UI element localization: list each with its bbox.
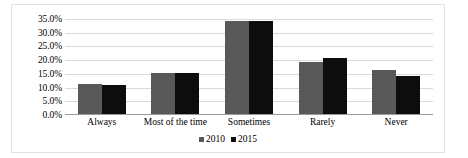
- bar-2010[interactable]: [225, 21, 249, 114]
- legend-swatch-icon: [199, 137, 204, 142]
- bar-2010[interactable]: [151, 73, 175, 114]
- bar-group: [286, 19, 360, 114]
- bar-2010[interactable]: [78, 84, 102, 114]
- legend-item-2015[interactable]: 2015: [231, 134, 257, 144]
- bar-groups: [65, 19, 433, 114]
- y-axis-tick: 10.0%: [38, 83, 62, 93]
- x-axis-label: Sometimes: [212, 117, 286, 127]
- bar-2015[interactable]: [249, 21, 273, 114]
- y-axis-tick: 25.0%: [38, 41, 62, 51]
- x-axis-label: Rarely: [286, 117, 360, 127]
- chart-legend: 20102015: [12, 134, 444, 144]
- y-axis-tick: 35.0%: [38, 14, 62, 24]
- y-axis-tick: 0.0%: [43, 110, 62, 120]
- y-axis-tick: 15.0%: [38, 69, 62, 79]
- plot-wrapper: 35.0%30.0%25.0%20.0%15.0%10.0%5.0%0.0% A…: [12, 5, 444, 152]
- bar-group: [212, 19, 286, 114]
- x-axis-line: [65, 114, 433, 115]
- x-axis-label: Most of the time: [139, 117, 213, 127]
- bar-2010[interactable]: [372, 70, 396, 114]
- bar-group: [139, 19, 213, 114]
- legend-label: 2015: [238, 134, 257, 144]
- y-axis: 35.0%30.0%25.0%20.0%15.0%10.0%5.0%0.0%: [18, 19, 62, 115]
- legend-swatch-icon: [231, 137, 236, 142]
- bar-2015[interactable]: [102, 85, 126, 114]
- bar-2015[interactable]: [323, 58, 347, 114]
- bar-group: [359, 19, 433, 114]
- legend-item-2010[interactable]: 2010: [199, 134, 225, 144]
- x-axis-label: Never: [359, 117, 433, 127]
- y-axis-tick: 5.0%: [43, 96, 62, 106]
- y-axis-tick: 20.0%: [38, 55, 62, 65]
- legend-label: 2010: [206, 134, 225, 144]
- bar-2010[interactable]: [299, 62, 323, 114]
- bar-2015[interactable]: [396, 76, 420, 114]
- plot-area: [65, 19, 433, 115]
- x-axis-label: Always: [65, 117, 139, 127]
- chart-container: 35.0%30.0%25.0%20.0%15.0%10.0%5.0%0.0% A…: [11, 4, 445, 153]
- y-axis-tick: 30.0%: [38, 28, 62, 38]
- bar-2015[interactable]: [175, 73, 199, 114]
- bar-group: [65, 19, 139, 114]
- x-axis-labels: AlwaysMost of the timeSometimesRarelyNev…: [65, 117, 433, 127]
